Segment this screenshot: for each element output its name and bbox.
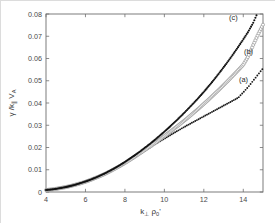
data-point <box>247 31 249 33</box>
y-tick-label: 0.06 <box>28 54 42 63</box>
data-point <box>255 14 257 16</box>
data-point <box>261 68 263 70</box>
data-point <box>245 89 247 91</box>
data-point <box>233 99 235 101</box>
data-point <box>214 109 216 111</box>
data-point <box>253 79 255 81</box>
data-point <box>256 75 258 77</box>
curve-label-a: (a) <box>239 75 248 84</box>
data-point <box>221 106 223 108</box>
data-point <box>224 104 226 106</box>
data-point <box>249 28 251 30</box>
y-tick-label: 0.07 <box>28 32 42 41</box>
x-tick-label: 6 <box>83 195 87 204</box>
y-tick-label: 0.04 <box>28 99 42 108</box>
data-point <box>238 96 240 98</box>
data-point <box>258 72 260 74</box>
data-point <box>174 131 176 133</box>
data-point <box>231 100 233 102</box>
data-point <box>189 123 191 125</box>
data-point <box>209 112 211 114</box>
data-point <box>211 111 213 113</box>
data-point <box>179 128 181 130</box>
data-point <box>228 102 230 104</box>
data-point <box>172 132 174 134</box>
data-point <box>191 122 193 124</box>
data-point <box>250 26 252 28</box>
figure-container: 46810121400.010.020.030.040.050.060.070.… <box>0 0 275 223</box>
data-point <box>186 125 188 127</box>
y-tick-label: 0.08 <box>28 10 42 19</box>
data-point <box>240 94 242 96</box>
curve-label-c: (c) <box>229 13 238 22</box>
data-point <box>176 130 178 132</box>
data-point <box>203 116 205 118</box>
data-point <box>216 108 218 110</box>
data-point <box>183 126 185 128</box>
data-point <box>198 118 200 120</box>
data-point <box>261 23 264 26</box>
data-point <box>254 17 256 19</box>
data-point <box>230 101 232 103</box>
data-point <box>253 19 255 21</box>
y-tick-label: 0.01 <box>28 165 42 174</box>
x-tick-label: 8 <box>123 195 127 204</box>
data-point <box>199 117 201 119</box>
x-tick-label: 14 <box>239 195 247 204</box>
data-point <box>196 119 198 121</box>
data-point <box>171 133 173 135</box>
data-point <box>243 91 245 93</box>
data-point <box>255 77 257 79</box>
data-point <box>213 110 215 112</box>
y-tick-label: 0 <box>38 188 42 197</box>
data-point <box>260 70 262 72</box>
x-tick-label: 12 <box>200 195 208 204</box>
data-point <box>193 121 195 123</box>
data-point <box>204 115 206 117</box>
data-point <box>251 81 253 83</box>
data-point <box>218 107 220 109</box>
data-point <box>246 87 248 89</box>
data-point <box>248 85 250 87</box>
data-point <box>208 113 210 115</box>
data-point <box>188 124 190 126</box>
chart-plot: 46810121400.010.020.030.040.050.060.070.… <box>1 1 275 223</box>
data-point <box>251 24 253 26</box>
data-point <box>181 127 183 129</box>
data-point <box>194 120 196 122</box>
data-point <box>248 30 250 32</box>
y-tick-label: 0.05 <box>28 76 42 85</box>
data-point <box>241 93 243 95</box>
data-point <box>223 105 225 107</box>
data-point <box>206 114 208 116</box>
data-point <box>250 83 252 85</box>
y-tick-label: 0.03 <box>28 121 42 130</box>
data-point <box>219 106 221 108</box>
data-point <box>226 103 228 105</box>
data-point <box>184 125 186 127</box>
curve-label-b: (b) <box>244 47 253 56</box>
data-point <box>236 97 238 99</box>
data-point <box>178 129 180 131</box>
data-point <box>252 22 254 24</box>
x-tick-label: 10 <box>160 195 168 204</box>
data-point <box>201 116 203 118</box>
plot-background <box>1 1 275 223</box>
y-tick-label: 0.02 <box>28 143 42 152</box>
x-tick-label: 4 <box>44 195 48 204</box>
data-point <box>235 98 237 100</box>
